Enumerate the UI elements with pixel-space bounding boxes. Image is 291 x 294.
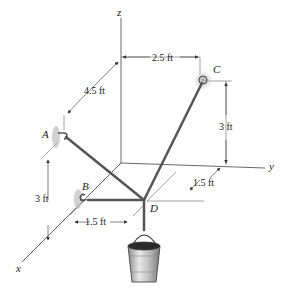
dim-4-5ft: 4.5 ft bbox=[84, 85, 105, 96]
x-axis bbox=[22, 163, 121, 262]
label-C: C bbox=[213, 63, 221, 75]
dim-2-5ft: 2.5 ft bbox=[152, 52, 173, 63]
support-B bbox=[74, 189, 85, 209]
dim-3ft-a: 3 ft bbox=[35, 193, 49, 204]
y-axis-label: y bbox=[268, 160, 274, 172]
label-D: D bbox=[149, 202, 158, 214]
support-C bbox=[193, 70, 213, 90]
cable-diagram: z y x 4.5 ft 2.5 ft 3 ft 1.5 ft bbox=[0, 0, 291, 294]
cables bbox=[66, 83, 202, 230]
dim-3ft-c: 3 ft bbox=[219, 121, 233, 132]
x-axis-label: x bbox=[15, 262, 21, 274]
label-A: A bbox=[41, 128, 49, 140]
dim-1-5ft-b: 1.5 ft bbox=[85, 216, 106, 227]
y-axis bbox=[121, 163, 265, 168]
label-B: B bbox=[82, 180, 89, 192]
z-axis-label: z bbox=[116, 6, 122, 18]
bucket bbox=[128, 235, 160, 282]
dim-1-5ft-d: 1.5 ft bbox=[193, 177, 214, 188]
